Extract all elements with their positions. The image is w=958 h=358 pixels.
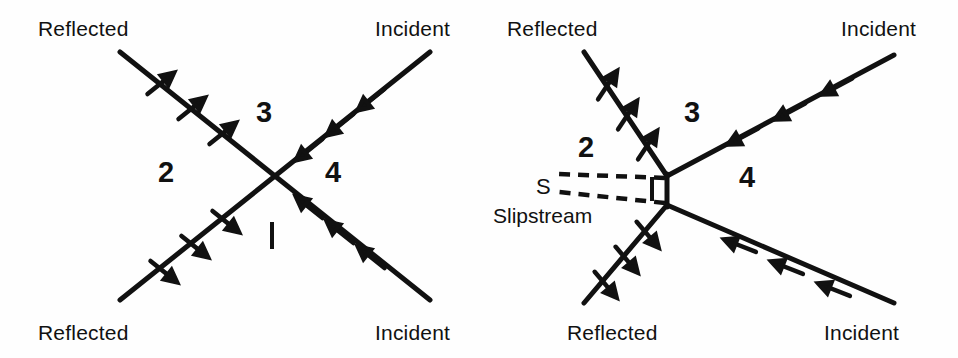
shock-line-reflected-upper-left [584, 52, 667, 176]
arrow-group-reflected-lower-left [590, 218, 663, 302]
panel-mach-reflection: Reflected Incident Reflected Incident 3 … [479, 0, 958, 358]
regular-reflection-drawing [0, 0, 479, 358]
label-reflected-bottom-left: Reflected [38, 322, 129, 343]
label-reflected-top-left: Reflected [507, 18, 598, 39]
label-incident-bottom-right: Incident [824, 322, 899, 343]
label-incident-top-right: Incident [375, 18, 450, 39]
arrow-group-incident-lower-right [722, 234, 852, 302]
slipstream-name-label: Slipstream [493, 205, 592, 226]
region-label-2: 2 [578, 133, 594, 162]
arrow-group-incident-lower-right [292, 192, 388, 273]
region-label-4: 4 [325, 158, 341, 187]
label-incident-top-right: Incident [841, 18, 916, 39]
figure-canvas: Reflected Incident Reflected Incident 3 … [0, 0, 958, 358]
region-label-1 [650, 177, 654, 201]
shock-line-reflected-lower-left [584, 205, 667, 303]
region-label-1 [270, 222, 274, 249]
slipstream-symbol-label: S [536, 176, 551, 198]
arrow-group-incident-upper-right [292, 84, 388, 165]
panel-regular-reflection: Reflected Incident Reflected Incident 3 … [0, 0, 479, 358]
shock-line-incident-lower-right [667, 205, 894, 303]
arrow-group-reflected-lower-left [147, 206, 243, 287]
region-label-2: 2 [158, 158, 174, 187]
mach-reflection-drawing [479, 0, 958, 358]
label-reflected-top-left: Reflected [38, 18, 129, 39]
label-incident-bottom-right: Incident [375, 322, 450, 343]
label-reflected-bottom-left: Reflected [567, 322, 658, 343]
region-label-3: 3 [256, 98, 272, 127]
region-label-3: 3 [684, 98, 700, 127]
region-label-4: 4 [739, 163, 755, 192]
